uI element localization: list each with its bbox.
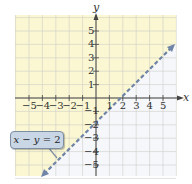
y-tick-label: −2: [84, 120, 99, 130]
equation-callout: x − y = 2: [10, 131, 64, 149]
y-tick-label: 2: [88, 66, 94, 76]
y-tick-label: 5: [88, 26, 94, 36]
x-tick-label: 2: [120, 101, 126, 111]
y-tick-label: 3: [88, 53, 94, 63]
y-tick-label: −3: [84, 133, 99, 143]
x-tick-label: 1: [106, 101, 112, 111]
x-axis-label: x: [183, 92, 189, 103]
x-tick-label: 4: [147, 101, 153, 111]
callout-minus: −: [19, 134, 34, 145]
callout-rhs: = 2: [39, 134, 60, 145]
y-axis-label: y: [93, 2, 99, 13]
y-tick-label: −5: [84, 160, 99, 170]
y-tick-label: 1: [88, 80, 94, 90]
y-tick-label: −4: [84, 147, 99, 157]
y-tick-label: −1: [84, 106, 99, 116]
y-tick-label: 4: [88, 39, 94, 49]
x-tick-label: 3: [133, 101, 139, 111]
x-tick-label: 5: [160, 101, 166, 111]
